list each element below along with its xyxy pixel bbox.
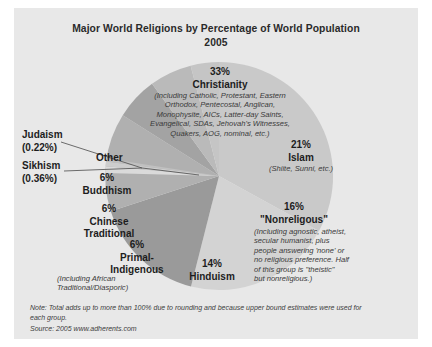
hinduism-percent: 14% xyxy=(176,258,248,271)
christianity-detail-2: Orthodox, Pentecostal, Anglican, xyxy=(136,100,304,109)
chart-footnote: Note: Total adds up to more than 100% du… xyxy=(30,303,410,334)
buddhism-name: Buddhism xyxy=(61,185,153,198)
christianity-detail-3: Monophysite, AICs, Latter-day Saints, xyxy=(136,110,304,119)
chinese-percent: 6% xyxy=(66,203,152,216)
judaism-percent: (0.22%) xyxy=(22,142,94,155)
christianity-name: Christianity xyxy=(136,79,304,92)
nonreligious-percent: 16% xyxy=(233,201,355,214)
islam-detail-1: (Shiite, Sunni, etc.) xyxy=(247,164,355,173)
primal-detail-1: (Including African xyxy=(57,274,167,283)
hinduism-name: Hinduism xyxy=(176,271,248,284)
chinese-name-2: Traditional xyxy=(66,228,152,241)
nonreligious-detail-5: of this group is "theistic" xyxy=(254,265,384,274)
nonreligious-name: "Nonreligous" xyxy=(233,214,355,227)
christianity-detail-5: Quakers, AOG, nominal, etc.) xyxy=(136,129,304,138)
footnote-line-3: Source: 2005 www.adherents.com xyxy=(30,324,410,334)
christianity-detail-1: (Including Catholic, Protestant, Eastern xyxy=(136,91,304,100)
other-name: Other xyxy=(96,152,156,165)
nonreligious-detail-4: no religious preference. Half xyxy=(254,255,384,264)
christianity-detail-4: Evangelical, SDAs, Jehovah's Witnesses, xyxy=(136,119,304,128)
label-nonreligious-detail: (Including agnostic, atheist, secular hu… xyxy=(254,227,384,283)
label-primal-indigenous: 6% Primal- Indigenous xyxy=(93,239,181,277)
islam-name: Islam xyxy=(247,152,355,165)
nonreligious-detail-1: (Including agnostic, atheist, xyxy=(254,227,384,236)
primal-name-1: Primal- xyxy=(93,252,181,265)
nonreligious-detail-6: but nonreligious.) xyxy=(254,274,384,283)
label-primal-detail: (Including African Traditional/Diasporic… xyxy=(57,274,167,293)
primal-detail-2: Traditional/Diasporic) xyxy=(57,283,167,292)
label-other: Other xyxy=(96,152,156,165)
primal-percent: 6% xyxy=(93,239,181,252)
sikhism-name: Sikhism xyxy=(22,160,92,173)
label-sikhism: Sikhism (0.36%) xyxy=(22,160,92,185)
footnote-line-1: Note: Total adds up to more than 100% du… xyxy=(30,303,410,313)
label-chinese-traditional: 6% Chinese Traditional xyxy=(66,203,152,241)
islam-percent: 21% xyxy=(247,139,355,152)
label-hinduism: 14% Hinduism xyxy=(176,258,248,283)
chinese-name-1: Chinese xyxy=(66,216,152,229)
nonreligious-detail-3: people answering 'none' or xyxy=(254,246,384,255)
pie-chart-figure: Major World Religions by Percentage of W… xyxy=(0,0,432,347)
christianity-percent: 33% xyxy=(136,66,304,79)
label-islam: 21% Islam (Shiite, Sunni, etc.) xyxy=(247,139,355,173)
sikhism-percent: (0.36%) xyxy=(22,173,92,186)
footnote-line-2: each group. xyxy=(30,313,410,323)
judaism-name: Judaism xyxy=(22,129,94,142)
label-nonreligious: 16% "Nonreligous" xyxy=(233,201,355,226)
nonreligious-detail-2: secular humanist, plus xyxy=(254,236,384,245)
label-judaism: Judaism (0.22%) xyxy=(22,129,94,154)
label-christianity: 33% Christianity (Including Catholic, Pr… xyxy=(136,66,304,138)
